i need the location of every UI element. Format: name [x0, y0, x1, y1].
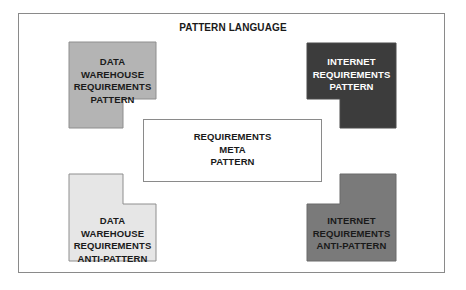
dw-pattern-label: DATA WAREHOUSE REQUIREMENTS PATTERN	[69, 56, 156, 106]
internet-pattern-label: INTERNET REQUIREMENTS PATTERN	[307, 56, 396, 94]
meta-pattern-label: REQUIREMENTS META PATTERN	[143, 131, 322, 169]
dw-antipattern-label: DATA WAREHOUSE REQUIREMENTS ANTI-PATTERN	[69, 215, 156, 265]
internet-antipattern-label: INTERNET REQUIREMENTS ANTI-PATTERN	[307, 215, 396, 253]
